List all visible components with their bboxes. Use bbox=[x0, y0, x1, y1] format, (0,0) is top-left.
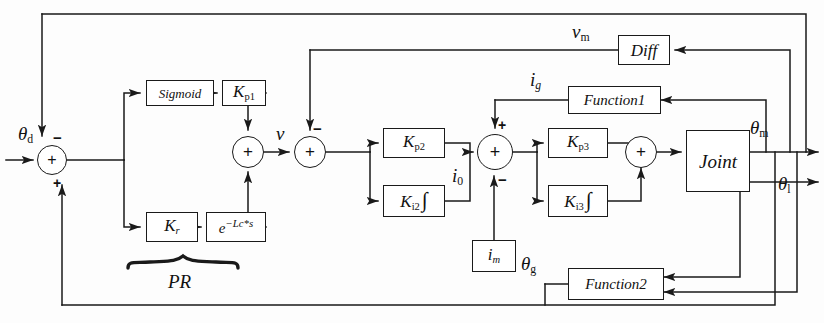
sign-plus-theta-error: + bbox=[53, 176, 61, 190]
block-im[interactable]: im bbox=[472, 240, 516, 272]
signal-label-vm: vm bbox=[572, 22, 590, 44]
block-kr[interactable]: Kr bbox=[146, 212, 198, 242]
signal-label-theta-m: θm bbox=[750, 118, 769, 140]
block-ki3-label: Ki3∫ bbox=[564, 190, 591, 212]
block-ki3-integrator[interactable]: Ki3∫ bbox=[548, 185, 608, 217]
summing-junction-pi3-output[interactable]: + bbox=[625, 136, 657, 168]
block-kr-label: Kr bbox=[164, 217, 179, 236]
block-delay-label: e−Lc*s bbox=[219, 218, 253, 236]
signal-label-theta-d: θd bbox=[18, 124, 33, 146]
block-sigmoid-label: Sigmoid bbox=[159, 87, 202, 100]
summing-junction-velocity-error[interactable]: + bbox=[294, 136, 326, 168]
summing-junction-theta-error[interactable]: + bbox=[37, 145, 67, 175]
block-transport-delay[interactable]: e−Lc*s bbox=[206, 212, 266, 242]
block-joint[interactable]: Joint bbox=[686, 130, 750, 192]
signal-label-ig: ig bbox=[530, 70, 541, 92]
block-diff[interactable]: Diff bbox=[618, 35, 670, 65]
block-kp2-label: Kp2 bbox=[403, 133, 425, 152]
block-joint-label: Joint bbox=[699, 152, 737, 171]
block-kp2[interactable]: Kp2 bbox=[383, 128, 445, 158]
signal-label-i0: i0 bbox=[452, 166, 463, 188]
block-kp1-label: Kp1 bbox=[233, 83, 255, 102]
sign-plus-current-error: + bbox=[498, 118, 506, 132]
block-function2[interactable]: Function2 bbox=[568, 268, 664, 300]
block-kp3[interactable]: Kp3 bbox=[548, 128, 608, 158]
sign-minus-current-error: − bbox=[498, 172, 507, 187]
block-kp1[interactable]: Kp1 bbox=[222, 80, 266, 106]
group-label-pr: PR bbox=[168, 272, 191, 291]
block-kp3-label: Kp3 bbox=[567, 133, 589, 152]
block-function1-label: Function1 bbox=[584, 93, 646, 108]
block-im-label: im bbox=[488, 246, 500, 265]
summing-junction-pr[interactable]: + bbox=[232, 136, 264, 168]
block-diff-label: Diff bbox=[631, 42, 657, 59]
sign-minus-velocity-error: − bbox=[313, 121, 322, 136]
block-function2-label: Function2 bbox=[585, 277, 647, 292]
signal-label-v: v bbox=[276, 124, 284, 143]
signal-label-theta-l: θl bbox=[778, 174, 791, 196]
block-diagram-canvas: Sigmoid Kp1 Kr e−Lc*s Kp2 Ki2∫ Kp3 Ki3∫ … bbox=[0, 0, 824, 323]
summing-junction-current-error[interactable]: + bbox=[477, 134, 513, 170]
sign-minus-theta-error: − bbox=[53, 130, 62, 145]
block-ki2-label: Ki2∫ bbox=[400, 190, 427, 212]
block-sigmoid[interactable]: Sigmoid bbox=[146, 80, 214, 106]
block-ki2-integrator[interactable]: Ki2∫ bbox=[383, 185, 445, 217]
signal-label-theta-g: θg bbox=[521, 254, 536, 276]
block-function1[interactable]: Function1 bbox=[568, 86, 661, 114]
